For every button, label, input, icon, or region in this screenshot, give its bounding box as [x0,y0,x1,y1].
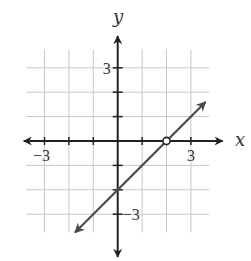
y-axis-label: y [112,6,124,27]
y-tick-label: 3 [103,60,111,77]
x-axis-label: x [235,129,245,150]
x-tick-label: 3 [187,147,195,164]
axis-labels: −333−3xy [33,6,245,223]
x-tick-label: −3 [33,147,50,164]
open-circle-point [163,137,170,144]
y-tick-label: −3 [123,206,140,223]
coordinate-plane: −333−3xy [0,0,251,261]
line-series [75,102,206,233]
data-series [75,102,206,233]
